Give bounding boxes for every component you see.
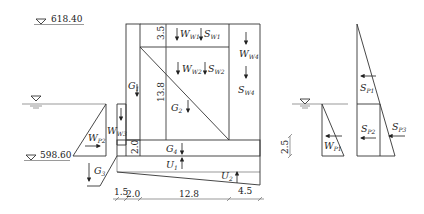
elevation-bottom-label: 598.60 [40, 150, 72, 160]
uplift-pressure: U1 U2 [117, 156, 260, 185]
elevation-top-label: 618.40 [51, 14, 83, 24]
earth-pressure-right: SP1 SP2 SP3 [357, 24, 407, 156]
dim-13.8: 13.8 [156, 82, 166, 102]
toe-wedge-G3: G3 [87, 156, 117, 186]
dim-2.0: 2.0 [130, 139, 140, 154]
label-G1: G1 [128, 80, 139, 92]
label-Sp3: SP3 [392, 121, 407, 133]
label-G3: G3 [94, 165, 106, 177]
front-wall: G1 [126, 24, 140, 140]
water-level-left [22, 96, 106, 108]
label-Sp2: SP2 [361, 123, 376, 135]
label-Ww4: WW4 [239, 48, 259, 60]
passive-pressure-right-Wp1: WP1 [322, 104, 344, 156]
dim-2.5: 2.5 [280, 139, 290, 154]
label-Wp2: WP2 [88, 132, 106, 144]
label-Ww1: WW1 [180, 28, 200, 40]
label-Ww2: WW2 [182, 63, 202, 75]
retaining-wall-load-diagram: 618.40 598.60 WP2 WW3 G3 G1 [0, 0, 424, 214]
label-Sw2: SW2 [208, 63, 225, 75]
label-U1: U1 [166, 159, 178, 171]
label-Wp1: WP1 [324, 140, 342, 152]
label-Sw4: SW4 [238, 84, 255, 96]
dim-2.0-h: 2.0 [126, 189, 141, 199]
label-G4: G4 [166, 143, 178, 155]
label-Sp1: SP1 [360, 82, 374, 94]
dim-12.8: 12.8 [179, 189, 199, 199]
elevation-marker-bottom: 598.60 [24, 150, 72, 161]
right-water-level [292, 99, 348, 108]
passive-pressure-left: WP2 [73, 104, 106, 156]
horizontal-dimensions: 1.5 2.0 12.8 4.5 [113, 186, 264, 201]
label-Sw1: SW1 [204, 28, 221, 40]
dim-3.5: 3.5 [156, 25, 166, 40]
water-depth-dim: 2.5 [280, 134, 292, 158]
toe-water-region: WW3 [107, 104, 127, 145]
label-G2: G2 [171, 102, 183, 114]
chamber-loads: WW1 SW1 WW2 SW2 G2 WW4 SW4 [171, 28, 259, 114]
elevation-marker-top: 618.40 [34, 14, 84, 25]
dim-4.5: 4.5 [238, 186, 253, 196]
